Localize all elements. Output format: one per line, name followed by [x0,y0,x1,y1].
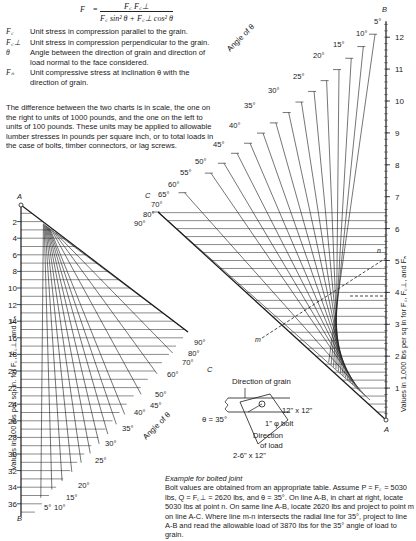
radial-line [329,34,375,362]
point-m-label: m [255,336,261,343]
dashed-line-m-n [262,258,386,338]
point-a-marker [19,203,23,207]
point-b-label: B [17,514,22,523]
angle-label: 35° [122,424,133,433]
load-direction-label-line2: of load [260,441,283,450]
radial-line [46,226,81,463]
radial-line [49,228,116,424]
point-c-label: C [145,191,151,200]
radial-line [56,233,188,332]
radial-line [263,133,351,382]
angle-label: 70° [182,358,193,367]
axis-tick-label: 6 [395,225,400,234]
left-axis-label: Values in 100 lbs per sq. in. for F꜀, F꜀… [8,316,18,470]
angle-label: 45° [150,401,161,410]
angle-label: 30° [268,86,279,95]
right-axis-label: Values in 1,000 lbs per sq in for F꜀, F꜀… [398,256,408,412]
bolt-label: 1" φ bolt [265,419,294,428]
axis-tick-label: 6 [13,251,18,260]
angle-label: 20° [78,481,89,490]
axis-tick-label: 10 [395,97,404,106]
radial-line [51,230,141,395]
axis-tick-label: 36 [8,500,17,509]
point-n-label: n [377,247,381,254]
axis-tick-label: 4 [13,234,18,243]
example-heading: Example for bolted joint [165,474,415,483]
angle-label: 20° [313,51,324,60]
angle-label: 50° [155,390,166,399]
axis-tick-label: 10 [8,284,17,293]
example-body: Bolt values are obtained from an appropr… [165,483,415,539]
load-direction-label-line1: Direction [253,431,283,440]
angle-label: 25° [293,72,304,81]
axis-tick-label: 12 [395,33,404,42]
angle-label: 60° [167,370,178,379]
angle-label: 15° [333,40,344,49]
angle-label: 80° [188,349,199,358]
grain-direction-label: Direction of grain [232,377,291,386]
side-member-label: 2-6" x 12" [233,451,266,460]
point-a-marker [384,418,388,422]
point-a-label: A [383,425,389,434]
radial-line [47,226,90,453]
angle-label: 30° [105,439,116,448]
angle-label: 40° [229,121,240,130]
axis-tick-label: 2 [13,218,18,227]
angle-label: 60° [168,180,179,189]
point-c-label: C [207,365,213,374]
axis-tick-label: 8 [395,161,400,170]
angle-label: 65° [158,190,169,199]
angle-title: Angle of θ [141,410,172,441]
angle-label: 15° [66,493,77,502]
line-a-c-right [158,212,386,420]
angle-label: 40° [134,408,145,417]
axis-tick-label: 8 [13,267,18,276]
axis-tick-label: 7 [395,193,400,202]
nomograph-charts: 123456789101112ABCnm5°10°15°20°25°30°35°… [0,0,416,541]
break-line [225,398,228,412]
angle-label: 90° [194,338,205,347]
angle-label: 25° [95,456,106,465]
angle-title: Angle of θ [225,22,256,53]
angle-label: 35° [244,101,255,110]
angle-label: 5° [374,17,381,26]
axis-tick-label: 9 [395,129,400,138]
radial-line [158,212,370,400]
theta-label: θ = 35° [202,415,227,424]
load-direction-line [248,404,262,412]
angle-label: 90° [134,219,145,228]
axis-tick-label: 11 [395,65,404,74]
angle-label: 45° [213,140,224,149]
axis-tick-label: 34 [8,483,17,492]
bolted-joint-example: Example for bolted joint Bolt values are… [165,474,415,540]
point-a-label: A [16,192,22,201]
angle-label: 50° [195,157,206,166]
angle-label: 10° [356,29,367,38]
radial-line [250,143,353,384]
radial-line [44,224,52,489]
member-size-label: 12" x 12" [282,406,313,415]
angle-label: 70° [151,200,162,209]
angle-label: 80° [143,210,154,219]
angle-label: 10° [54,503,65,512]
radial-line [41,224,44,498]
angle-label: 55° [180,168,191,177]
axis-tick-label: 12 [8,301,17,310]
radial-line [54,232,172,353]
point-b-label: B [382,5,387,14]
angle-label: 5° [44,503,51,512]
radial-line [49,227,108,434]
radial-line [53,231,157,374]
